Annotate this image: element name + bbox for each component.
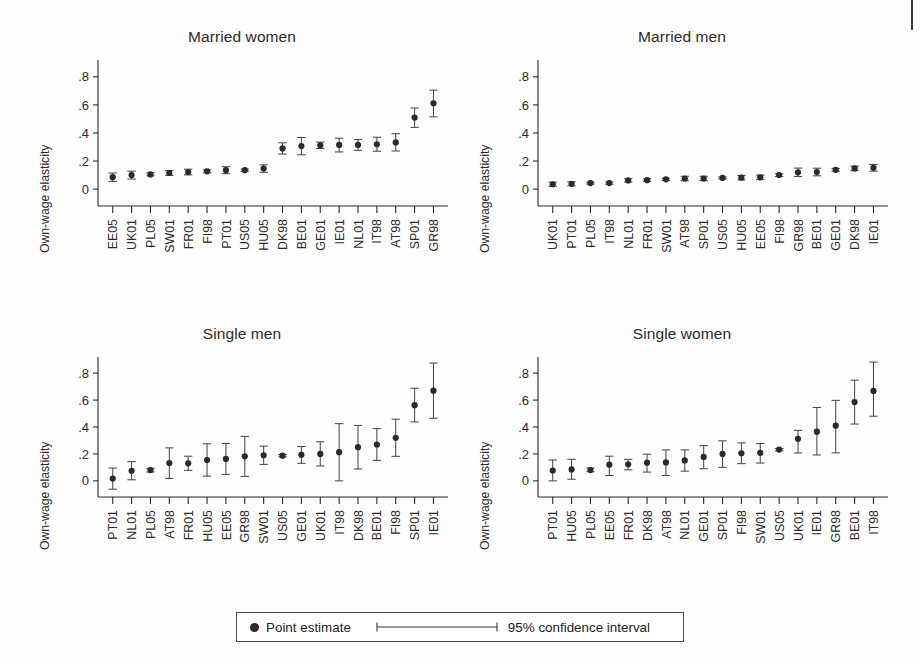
x-tick-label: GR98 — [829, 510, 843, 542]
point-estimate-marker — [701, 454, 707, 460]
x-tick-label: EE05 — [754, 219, 768, 249]
y-tick-label: .6 — [518, 393, 529, 408]
x-tick-label: UK01 — [792, 510, 806, 541]
x-tick-label: NL01 — [678, 510, 692, 540]
data-point-group — [316, 142, 324, 148]
x-tick-label: IE01 — [333, 219, 347, 245]
x-tick-label: PT01 — [565, 219, 579, 249]
x-tick-label: BE01 — [848, 510, 862, 540]
point-estimate-marker — [682, 175, 688, 181]
point-estimate-marker — [870, 388, 876, 394]
x-tick-label: IT98 — [867, 510, 881, 535]
data-point-group — [737, 443, 745, 464]
point-estimate-marker — [223, 456, 229, 462]
point-estimate-marker — [568, 466, 574, 472]
data-point-group — [373, 429, 381, 461]
point-estimate-marker — [738, 450, 744, 456]
data-point-group — [410, 388, 418, 422]
x-tick-label: SP01 — [408, 510, 422, 540]
x-tick-label: EE05 — [106, 219, 120, 249]
data-point-group — [429, 363, 437, 418]
point-estimate-marker — [298, 452, 304, 458]
point-estimate-marker — [279, 453, 285, 459]
data-point-group — [737, 175, 745, 181]
data-point-group — [184, 456, 192, 470]
point-estimate-marker — [852, 399, 858, 405]
data-point-group — [850, 165, 858, 171]
point-estimate-marker — [682, 457, 688, 463]
data-point-group — [392, 134, 400, 151]
data-point-group — [869, 164, 877, 171]
data-point-group — [335, 424, 343, 481]
data-point-group — [259, 165, 267, 172]
legend-ci-label: 95% confidence interval — [508, 620, 650, 635]
y-tick-label: 0 — [522, 182, 529, 197]
point-estimate-marker — [606, 180, 612, 186]
x-tick-label: PL05 — [584, 219, 598, 248]
x-tick-label: EE05 — [220, 510, 234, 540]
figure-page: Married women Own-wage elasticity 0.2.4.… — [0, 0, 921, 661]
data-point-group — [643, 454, 651, 472]
point-estimate-marker — [110, 475, 116, 481]
point-estimate-marker — [412, 402, 418, 408]
data-point-group — [681, 450, 689, 471]
x-tick-label: NL01 — [352, 219, 366, 249]
data-point-group — [297, 137, 305, 154]
data-point-group — [662, 176, 670, 182]
point-estimate-marker — [663, 176, 669, 182]
point-estimate-marker — [852, 165, 858, 171]
y-tick-label: .2 — [78, 154, 89, 169]
point-estimate-marker — [795, 169, 801, 175]
x-tick-label: US05 — [716, 219, 730, 250]
x-tick-label: GR98 — [238, 510, 252, 542]
point-estimate-marker — [430, 100, 436, 106]
y-tick-label: .6 — [78, 98, 89, 113]
x-tick-label: IE01 — [427, 510, 441, 536]
data-point-group — [354, 140, 362, 151]
point-estimate-marker — [393, 139, 399, 145]
legend-point-estimate-label: Point estimate — [266, 620, 351, 635]
data-point-group — [146, 171, 154, 177]
point-estimate-marker — [738, 175, 744, 181]
x-tick-label: US05 — [238, 219, 252, 250]
data-point-group — [832, 400, 840, 453]
y-tick-label: .6 — [518, 98, 529, 113]
y-tick-label: .2 — [518, 447, 529, 462]
x-tick-label: UK01 — [125, 219, 139, 250]
y-tick-label: .8 — [518, 366, 529, 381]
point-estimate-marker — [204, 168, 210, 174]
x-tick-label: FI98 — [735, 510, 749, 535]
data-point-group — [259, 446, 267, 464]
data-point-group — [392, 419, 400, 456]
y-tick-label: .4 — [78, 420, 89, 435]
point-estimate-marker — [550, 181, 556, 187]
x-tick-label: AT98 — [660, 510, 674, 539]
point-estimate-marker — [719, 451, 725, 457]
data-point-group — [278, 143, 286, 154]
x-tick-label: PT01 — [546, 510, 560, 540]
point-estimate-marker — [128, 468, 134, 474]
plot-area: 0.2.4.6.8PT01NL01PL05AT98FR01HU05EE05GR9… — [22, 325, 462, 610]
x-tick-label: DK98 — [276, 219, 290, 250]
data-point-group — [775, 172, 783, 178]
data-point-group — [373, 137, 381, 151]
point-estimate-marker — [814, 429, 820, 435]
data-point-group — [146, 467, 154, 473]
x-tick-label: FI98 — [389, 510, 403, 535]
data-point-group — [222, 167, 230, 174]
y-tick-label: .8 — [518, 69, 529, 84]
data-point-group — [278, 453, 286, 459]
point-estimate-marker — [644, 460, 650, 466]
point-estimate-marker — [242, 167, 248, 173]
panel-married-men: Married men Own-wage elasticity 0.2.4.6.… — [462, 28, 902, 328]
x-tick-label: PT01 — [106, 510, 120, 540]
point-estimate-marker — [701, 175, 707, 181]
point-estimate-marker — [128, 172, 134, 178]
data-point-group — [681, 175, 689, 181]
data-point-group — [756, 444, 764, 464]
point-estimate-marker — [374, 141, 380, 147]
x-tick-label: BE01 — [810, 219, 824, 249]
data-point-group — [316, 442, 324, 466]
data-point-group — [335, 138, 343, 152]
x-tick-label: NL01 — [125, 510, 139, 540]
